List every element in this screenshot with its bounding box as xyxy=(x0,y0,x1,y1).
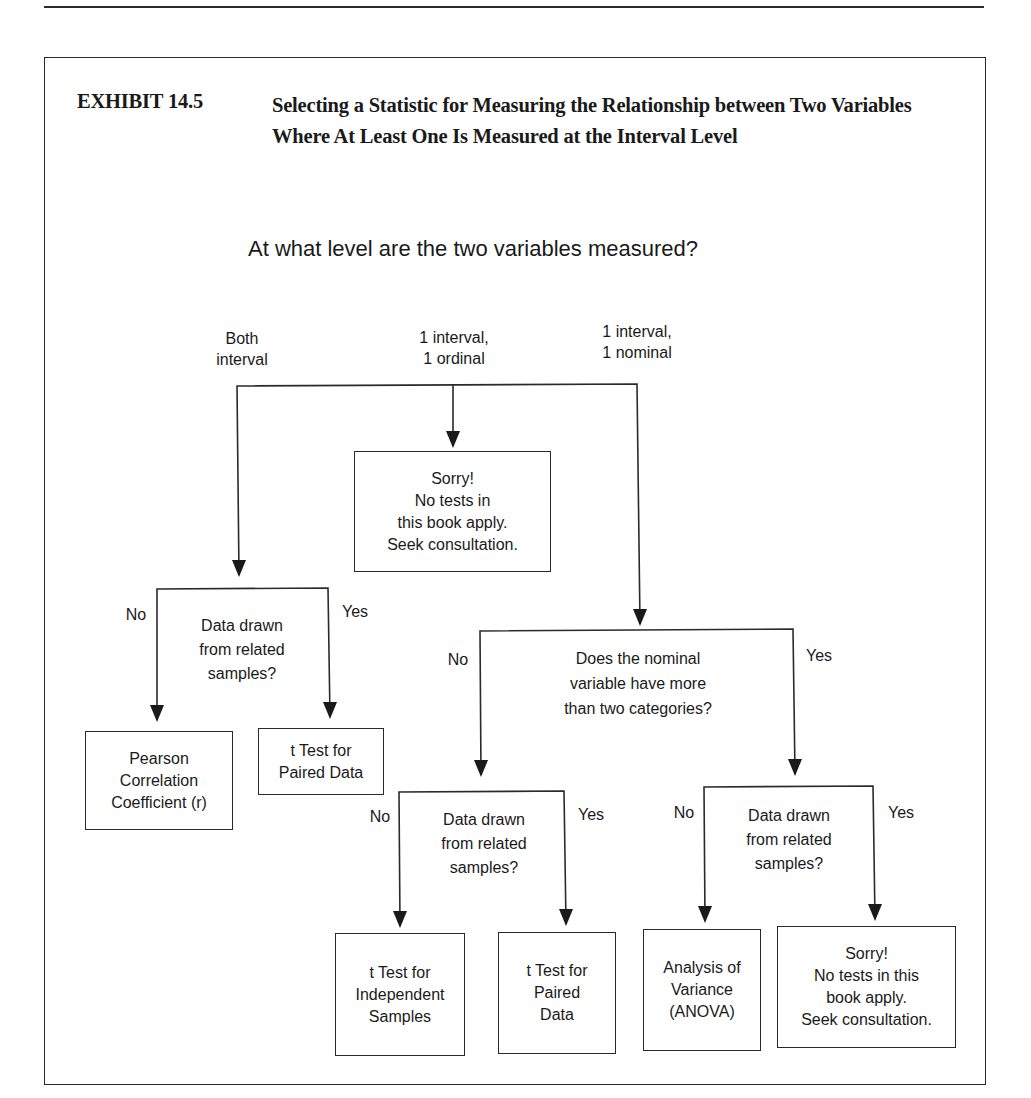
result-box-paired-t-test: t Test for Paired Data xyxy=(258,728,384,795)
branch-label-yes: Yes xyxy=(332,601,378,622)
question-nominal-categories: Does the nominal variable have more than… xyxy=(500,646,776,721)
arrow-down-icon xyxy=(393,911,407,928)
question-related-samples-more-categories: Data drawn from related samples? xyxy=(714,804,864,876)
arrow-down-icon xyxy=(868,904,882,921)
arrow-down-icon xyxy=(446,431,460,448)
arrow-down-icon xyxy=(323,702,337,719)
branch-label-no: No xyxy=(440,649,476,670)
result-box-anova: Analysis of Variance (ANOVA) xyxy=(643,929,761,1051)
branch-label-yes: Yes xyxy=(878,802,924,823)
arrow-down-icon xyxy=(633,609,647,626)
result-box-pearson: Pearson Correlation Coefficient (r) xyxy=(85,731,233,830)
result-box-ordinal-no-test: Sorry! No tests in this book apply. Seek… xyxy=(354,451,551,572)
branch-label-yes: Yes xyxy=(796,645,842,666)
question-related-samples-interval: Data drawn from related samples? xyxy=(166,614,318,686)
branch-label-no: No xyxy=(364,806,396,827)
branch-label-no: No xyxy=(668,802,700,823)
arrow-down-icon xyxy=(559,909,573,926)
result-box-paired-t-test: t Test for Paired Data xyxy=(498,932,616,1054)
arrow-down-icon xyxy=(788,759,802,776)
branch-label-no: No xyxy=(120,604,152,625)
arrow-down-icon xyxy=(150,705,164,722)
arrow-down-icon xyxy=(698,906,712,923)
branch-label-yes: Yes xyxy=(568,804,614,825)
arrow-down-icon xyxy=(474,760,488,777)
result-box-no-test: Sorry! No tests in this book apply. Seek… xyxy=(777,926,956,1048)
question-related-samples-two-categories: Data drawn from related samples? xyxy=(412,808,556,880)
arrow-down-icon xyxy=(232,560,246,577)
result-box-independent-t-test: t Test for Independent Samples xyxy=(335,933,465,1056)
